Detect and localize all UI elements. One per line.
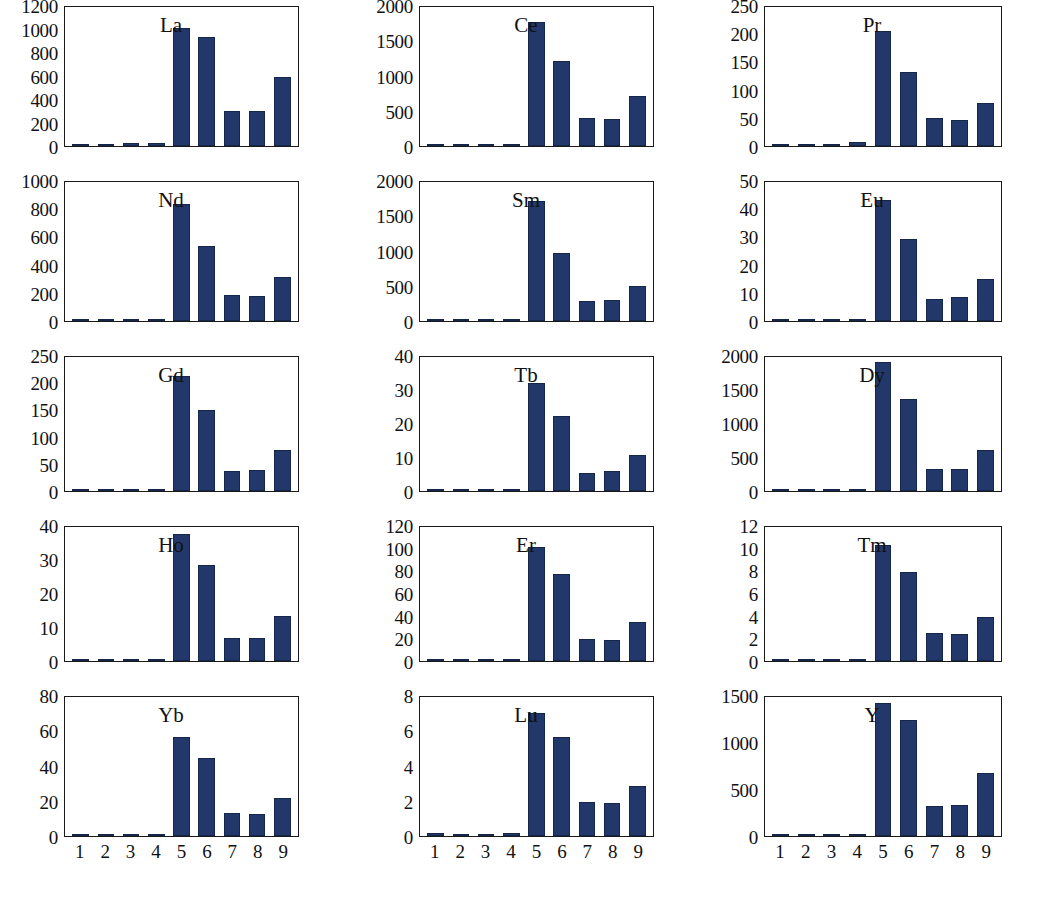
bar-pr-1[interactable] <box>772 144 789 146</box>
bar-y-6[interactable] <box>900 720 917 836</box>
bar-dy-2[interactable] <box>798 489 815 491</box>
bar-ho-3[interactable] <box>123 659 140 661</box>
bar-y-8[interactable] <box>951 805 968 837</box>
bar-sm-5[interactable] <box>528 201 545 321</box>
bar-ho-1[interactable] <box>72 659 89 661</box>
bar-er-2[interactable] <box>453 659 470 661</box>
bar-ho-9[interactable] <box>274 616 291 661</box>
bar-y-7[interactable] <box>926 806 943 836</box>
bar-dy-9[interactable] <box>977 450 994 491</box>
bar-lu-9[interactable] <box>629 786 646 836</box>
bar-la-7[interactable] <box>224 111 241 146</box>
bar-y-1[interactable] <box>772 834 789 836</box>
bar-er-5[interactable] <box>528 547 545 661</box>
bar-dy-6[interactable] <box>900 399 917 491</box>
bar-sm-9[interactable] <box>629 286 646 321</box>
bar-tb-8[interactable] <box>604 471 621 491</box>
bar-sm-1[interactable] <box>427 319 444 321</box>
bar-yb-5[interactable] <box>173 737 190 836</box>
bar-er-4[interactable] <box>503 659 520 661</box>
bar-lu-2[interactable] <box>453 834 470 836</box>
bar-eu-6[interactable] <box>900 239 917 321</box>
bar-tm-6[interactable] <box>900 572 917 661</box>
bar-ce-3[interactable] <box>478 144 495 146</box>
bar-sm-8[interactable] <box>604 300 621 321</box>
bar-nd-2[interactable] <box>98 319 115 321</box>
bar-la-5[interactable] <box>173 28 190 146</box>
bar-tb-5[interactable] <box>528 383 545 491</box>
bar-er-6[interactable] <box>553 574 570 661</box>
bar-gd-3[interactable] <box>123 489 140 491</box>
bar-yb-6[interactable] <box>198 758 215 836</box>
bar-gd-9[interactable] <box>274 450 291 491</box>
bar-tm-7[interactable] <box>926 633 943 661</box>
bar-eu-7[interactable] <box>926 299 943 321</box>
bar-pr-6[interactable] <box>900 72 917 147</box>
bar-ce-8[interactable] <box>604 119 621 146</box>
bar-sm-6[interactable] <box>553 253 570 321</box>
bar-er-8[interactable] <box>604 640 621 661</box>
bar-nd-5[interactable] <box>173 204 190 321</box>
bar-dy-8[interactable] <box>951 469 968 491</box>
bar-tm-9[interactable] <box>977 617 994 661</box>
bar-y-4[interactable] <box>849 834 866 836</box>
bar-gd-6[interactable] <box>198 410 215 491</box>
bar-tm-4[interactable] <box>849 659 866 661</box>
bar-yb-2[interactable] <box>98 834 115 836</box>
bar-la-3[interactable] <box>123 143 140 146</box>
bar-yb-7[interactable] <box>224 813 241 836</box>
bar-tb-2[interactable] <box>453 489 470 491</box>
bar-pr-3[interactable] <box>823 144 840 146</box>
bar-tb-1[interactable] <box>427 489 444 491</box>
bar-er-1[interactable] <box>427 659 444 661</box>
bar-y-2[interactable] <box>798 834 815 836</box>
bar-pr-8[interactable] <box>951 120 968 146</box>
bar-eu-8[interactable] <box>951 297 968 321</box>
bar-gd-2[interactable] <box>98 489 115 491</box>
bar-lu-5[interactable] <box>528 713 545 836</box>
bar-la-4[interactable] <box>148 143 165 146</box>
bar-ho-4[interactable] <box>148 659 165 661</box>
bar-y-9[interactable] <box>977 773 994 836</box>
bar-er-3[interactable] <box>478 659 495 661</box>
bar-eu-9[interactable] <box>977 279 994 321</box>
bar-ce-6[interactable] <box>553 61 570 146</box>
bar-gd-8[interactable] <box>249 470 266 491</box>
bar-eu-4[interactable] <box>849 319 866 321</box>
bar-dy-3[interactable] <box>823 489 840 491</box>
bar-y-3[interactable] <box>823 834 840 836</box>
bar-ce-9[interactable] <box>629 96 646 146</box>
bar-nd-4[interactable] <box>148 319 165 321</box>
bar-nd-1[interactable] <box>72 319 89 322</box>
bar-lu-3[interactable] <box>478 834 495 836</box>
bar-gd-4[interactable] <box>148 489 165 491</box>
bar-eu-1[interactable] <box>772 319 789 321</box>
bar-ce-1[interactable] <box>427 144 444 146</box>
bar-nd-7[interactable] <box>224 295 241 321</box>
bar-pr-7[interactable] <box>926 118 943 146</box>
bar-sm-3[interactable] <box>478 319 495 321</box>
bar-nd-6[interactable] <box>198 246 215 321</box>
bar-tm-5[interactable] <box>875 545 892 661</box>
bar-ce-5[interactable] <box>528 22 545 146</box>
bar-la-9[interactable] <box>274 77 291 146</box>
bar-lu-7[interactable] <box>579 802 596 836</box>
bar-la-1[interactable] <box>72 144 89 146</box>
bar-tb-4[interactable] <box>503 489 520 491</box>
bar-tb-6[interactable] <box>553 416 570 491</box>
bar-sm-4[interactable] <box>503 319 520 321</box>
bar-ho-2[interactable] <box>98 659 115 661</box>
bar-ce-4[interactable] <box>503 144 520 146</box>
bar-er-9[interactable] <box>629 622 646 661</box>
bar-la-6[interactable] <box>198 37 215 146</box>
bar-pr-5[interactable] <box>875 31 892 146</box>
bar-ho-6[interactable] <box>198 565 215 661</box>
bar-pr-4[interactable] <box>849 142 866 146</box>
bar-gd-5[interactable] <box>173 376 190 491</box>
bar-la-2[interactable] <box>98 144 115 146</box>
bar-sm-7[interactable] <box>579 301 596 322</box>
bar-tb-3[interactable] <box>478 489 495 491</box>
bar-eu-3[interactable] <box>823 319 840 321</box>
bar-lu-1[interactable] <box>427 833 444 836</box>
bar-dy-7[interactable] <box>926 469 943 491</box>
